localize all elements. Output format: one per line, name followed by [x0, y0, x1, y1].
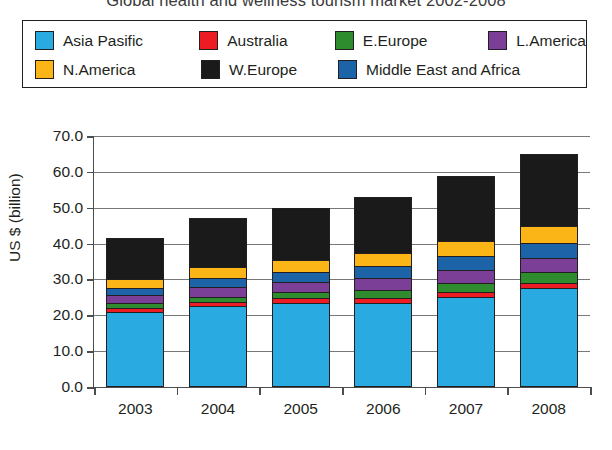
y-axis-tick — [87, 172, 94, 174]
bar-segment-w-europe[interactable] — [190, 218, 246, 268]
x-axis-tick — [259, 387, 261, 395]
stacked-bar[interactable] — [520, 154, 578, 387]
bar-segment-w-europe[interactable] — [438, 176, 494, 242]
bar-segment-asia-pasific[interactable] — [438, 298, 494, 386]
y-axis-tick — [87, 136, 94, 138]
bar-segment-l-america[interactable] — [521, 259, 577, 273]
legend-swatch-icon — [488, 31, 507, 50]
bar-segment-l-america[interactable] — [190, 288, 246, 297]
legend-label: W.Europe — [229, 61, 297, 79]
y-axis-tick — [87, 279, 94, 281]
legend-swatch-icon — [201, 60, 220, 79]
gridline — [94, 208, 590, 209]
stacked-bar[interactable] — [189, 218, 247, 387]
y-axis-tick-label: 40.0 — [53, 235, 83, 253]
legend-label: Asia Pasific — [63, 32, 143, 50]
legend-swatch-icon — [35, 31, 54, 50]
x-axis-tick — [590, 387, 592, 395]
bar-segment-middle-east-and-africa[interactable] — [521, 244, 577, 259]
bar-segment-e-europe[interactable] — [438, 284, 494, 293]
legend-item-l-america[interactable]: L.America — [488, 26, 586, 55]
stacked-bar[interactable] — [354, 197, 412, 387]
bar-segment-asia-pasific[interactable] — [521, 289, 577, 386]
legend-item-middle-east-and-africa[interactable]: Middle East and Africa — [338, 55, 520, 84]
bar-segment-w-europe[interactable] — [107, 238, 163, 279]
y-axis-tick — [87, 315, 94, 317]
bar-segment-asia-pasific[interactable] — [190, 307, 246, 386]
legend-label: L.America — [516, 32, 586, 50]
y-axis-title: US $ (billion) — [6, 173, 24, 262]
x-axis-tick — [94, 387, 96, 395]
stacked-bar[interactable] — [437, 176, 495, 387]
legend-item-n-america[interactable]: N.America — [35, 55, 201, 84]
y-axis-tick-label: 10.0 — [53, 342, 83, 360]
bar-segment-middle-east-and-africa[interactable] — [107, 289, 163, 296]
legend-label: Australia — [227, 32, 287, 50]
gridline — [94, 172, 590, 173]
bar-segment-w-europe[interactable] — [273, 208, 329, 261]
x-axis-tick — [425, 387, 427, 395]
bar-segment-n-america[interactable] — [438, 242, 494, 257]
bar-segment-e-europe[interactable] — [355, 291, 411, 299]
bar-segment-l-america[interactable] — [273, 283, 329, 293]
y-axis-tick — [87, 208, 94, 210]
gridline — [94, 315, 590, 316]
x-axis-tick-label: 2008 — [531, 400, 565, 418]
y-axis-tick — [87, 387, 94, 389]
stacked-bar[interactable] — [272, 208, 330, 387]
x-axis-tick-label: 2005 — [283, 400, 317, 418]
y-axis-tick-label: 0.0 — [61, 378, 83, 396]
legend-row: N.AmericaW.EuropeMiddle East and Africa — [35, 55, 586, 84]
bar-segment-l-america[interactable] — [107, 296, 163, 304]
gridline — [94, 279, 590, 280]
legend-label: N.America — [63, 61, 135, 79]
bar-segment-n-america[interactable] — [355, 254, 411, 267]
legend-swatch-icon — [199, 31, 218, 50]
chart-legend: Asia PasificAustraliaE.EuropeL.AmericaN.… — [22, 20, 587, 88]
bar-segment-w-europe[interactable] — [521, 154, 577, 227]
x-axis-tick-label: 2007 — [449, 400, 483, 418]
x-axis-tick-label: 2003 — [118, 400, 152, 418]
legend-item-e-europe[interactable]: E.Europe — [335, 26, 488, 55]
y-axis-tick-label: 20.0 — [53, 306, 83, 324]
bar-segment-l-america[interactable] — [355, 279, 411, 291]
y-axis-tick — [87, 244, 94, 246]
y-axis-tick-label: 70.0 — [53, 127, 83, 145]
bar-segment-e-europe[interactable] — [521, 273, 577, 283]
gridline — [94, 244, 590, 245]
legend-item-w-europe[interactable]: W.Europe — [201, 55, 338, 84]
bar-segment-n-america[interactable] — [190, 268, 246, 279]
bar-segment-middle-east-and-africa[interactable] — [190, 279, 246, 288]
bar-segment-middle-east-and-africa[interactable] — [273, 273, 329, 283]
bar-segment-n-america[interactable] — [107, 280, 163, 289]
bar-segment-asia-pasific[interactable] — [107, 313, 163, 387]
bar-segment-n-america[interactable] — [273, 261, 329, 273]
bar-segment-middle-east-and-africa[interactable] — [355, 267, 411, 279]
bar-segment-n-america[interactable] — [521, 227, 577, 244]
chart-title: Global health and wellness tourism marke… — [0, 0, 612, 10]
y-axis-tick-label: 60.0 — [53, 163, 83, 181]
x-axis-tick — [177, 387, 179, 395]
y-axis-tick-label: 30.0 — [53, 270, 83, 288]
gridline — [94, 136, 590, 137]
bar-segment-middle-east-and-africa[interactable] — [438, 257, 494, 271]
legend-label: E.Europe — [363, 32, 428, 50]
legend-swatch-icon — [35, 60, 54, 79]
x-axis-tick-label: 2004 — [201, 400, 235, 418]
legend-item-australia[interactable]: Australia — [199, 26, 335, 55]
x-axis-tick — [507, 387, 509, 395]
gridline — [94, 351, 590, 352]
y-axis-tick-label: 50.0 — [53, 199, 83, 217]
x-axis-tick-label: 2006 — [366, 400, 400, 418]
bar-segment-asia-pasific[interactable] — [273, 304, 329, 386]
legend-row: Asia PasificAustraliaE.EuropeL.America — [35, 26, 586, 55]
y-axis-tick — [87, 351, 94, 353]
bar-segment-w-europe[interactable] — [355, 197, 411, 254]
bar-segment-asia-pasific[interactable] — [355, 304, 411, 386]
legend-swatch-icon — [335, 31, 354, 50]
bar-segment-l-america[interactable] — [438, 271, 494, 284]
legend-swatch-icon — [338, 60, 357, 79]
stacked-bar[interactable] — [106, 238, 164, 387]
x-axis-tick — [342, 387, 344, 395]
legend-item-asia-pasific[interactable]: Asia Pasific — [35, 26, 199, 55]
